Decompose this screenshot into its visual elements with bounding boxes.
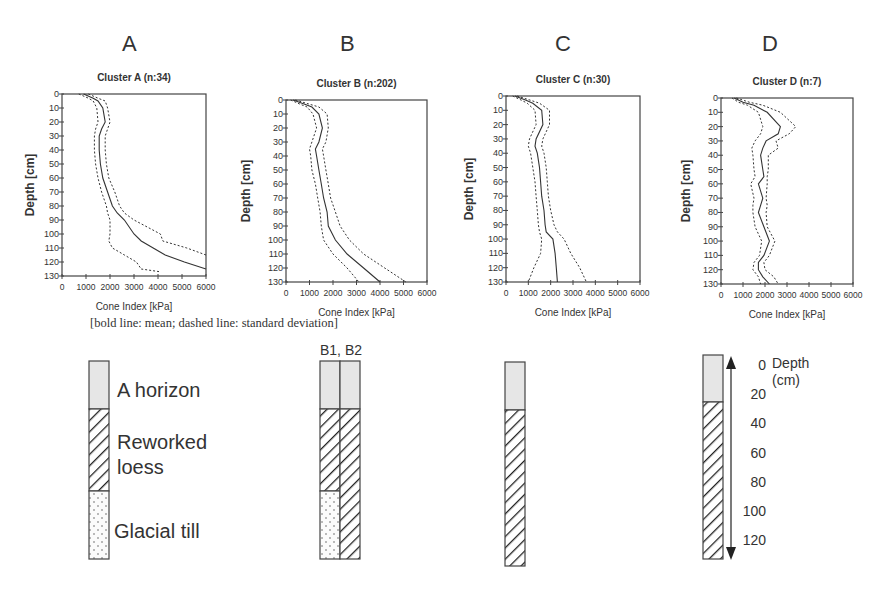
- column-a-reworked-loess: [89, 409, 109, 491]
- x-tick-label: 2000: [324, 288, 343, 298]
- y-tick-label: 50: [273, 165, 283, 175]
- y-tick-label: 0: [713, 93, 718, 103]
- y-tick-label: 20: [493, 120, 503, 130]
- y-tick-label: 120: [44, 257, 59, 267]
- y-tick-label: 90: [708, 222, 718, 232]
- figure-caption: [bold line: mean; dashed line: standard …: [90, 316, 338, 331]
- y-tick-label: 20: [49, 117, 59, 127]
- y-tick-label: 100: [268, 235, 283, 245]
- x-tick-label: 1000: [300, 288, 319, 298]
- legend-reworked-loess-line1: Reworked: [117, 430, 207, 454]
- x-tick-label: 2000: [756, 290, 775, 300]
- depth-tick-label: 0: [730, 357, 766, 373]
- x-tick-label: 6000: [631, 288, 650, 298]
- sd-line: [88, 94, 206, 255]
- depth-tick-label: 20: [730, 386, 766, 402]
- y-tick-label: 80: [49, 201, 59, 211]
- y-tick-label: 120: [703, 265, 718, 275]
- x-tick-label: 5000: [822, 290, 841, 300]
- legend-glacial-till: Glacial till: [114, 519, 200, 543]
- y-tick-label: 130: [268, 277, 283, 287]
- y-tick-label: 70: [273, 193, 283, 203]
- depth-tick-label: 100: [730, 503, 766, 519]
- y-tick-label: 50: [493, 163, 503, 173]
- y-tick-label: 10: [493, 105, 503, 115]
- plot-title: Cluster B (n:202): [316, 78, 396, 89]
- y-tick-label: 100: [44, 229, 59, 239]
- x-tick-label: 1000: [77, 282, 96, 292]
- column-b2-reworked-loess: [340, 409, 360, 559]
- y-tick-label: 40: [708, 150, 718, 160]
- y-tick-label: 60: [493, 177, 503, 187]
- sd-line: [295, 100, 406, 282]
- x-tick-label: 6000: [418, 288, 437, 298]
- x-tick-label: 1000: [734, 290, 753, 300]
- x-tick-label: 0: [504, 288, 509, 298]
- x-tick-label: 3000: [125, 282, 144, 292]
- y-tick-label: 80: [708, 207, 718, 217]
- y-tick-label: 40: [493, 148, 503, 158]
- y-tick-label: 100: [488, 234, 503, 244]
- plot-cluster-c: Cluster C (n:30)010203040506070809010011…: [462, 74, 650, 318]
- y-tick-label: 60: [708, 179, 718, 189]
- x-tick-label: 4000: [800, 290, 819, 300]
- y-tick-label: 10: [49, 103, 59, 113]
- sd-line: [732, 98, 763, 284]
- mean-line: [84, 94, 206, 269]
- x-tick-label: 2000: [101, 282, 120, 292]
- y-tick-label: 120: [488, 263, 503, 273]
- x-tick-label: 4000: [149, 282, 168, 292]
- sd-line: [141, 269, 160, 272]
- mean-line: [734, 98, 780, 284]
- column-b1-glacial-till: [320, 491, 340, 559]
- y-axis-label: Depth [cm]: [462, 158, 476, 221]
- x-tick-label: 5000: [608, 288, 627, 298]
- depth-tick-label: 40: [730, 415, 766, 431]
- y-tick-label: 80: [493, 205, 503, 215]
- y-tick-label: 110: [489, 248, 503, 258]
- y-tick-label: 50: [49, 159, 59, 169]
- y-axis-label: Depth [cm]: [239, 160, 253, 223]
- plot-frame: [721, 98, 853, 284]
- x-tick-label: 1000: [519, 288, 538, 298]
- y-tick-label: 70: [708, 193, 718, 203]
- column-c-reworked-loess: [505, 410, 525, 566]
- y-tick-label: 10: [708, 107, 718, 117]
- cone-index-plots: Cluster A (n:34)010203040506070809010011…: [23, 72, 863, 320]
- x-axis-label: Cone Index [kPa]: [749, 309, 826, 320]
- y-tick-label: 90: [273, 221, 283, 231]
- depth-tick-label: 60: [730, 445, 766, 461]
- column-b1-a-horizon: [320, 361, 340, 409]
- sd-line: [517, 96, 586, 282]
- x-tick-label: 3000: [564, 288, 583, 298]
- column-a-a-horizon: [89, 361, 109, 409]
- mean-line: [293, 100, 380, 282]
- y-tick-label: 0: [54, 89, 59, 99]
- b-columns-label: B1, B2: [320, 342, 362, 358]
- column-c-a-horizon: [505, 362, 525, 410]
- plot-frame: [62, 94, 206, 276]
- x-tick-label: 4000: [586, 288, 605, 298]
- column-b1-reworked-loess: [320, 409, 340, 491]
- depth-scale-title-line1: Depth: [772, 355, 809, 372]
- y-tick-label: 60: [49, 173, 59, 183]
- legend-reworked-loess-line2: loess: [117, 455, 164, 479]
- depth-tick-label: 80: [730, 474, 766, 490]
- plot-cluster-d: Cluster D (n:7)0102030405060708090100110…: [679, 76, 863, 320]
- y-tick-label: 100: [703, 236, 718, 246]
- y-tick-label: 80: [273, 207, 283, 217]
- y-tick-label: 70: [49, 187, 59, 197]
- plot-frame: [506, 96, 640, 282]
- depth-scale-title: Depth (cm): [772, 355, 809, 389]
- y-tick-label: 40: [49, 145, 59, 155]
- y-tick-label: 130: [488, 277, 503, 287]
- y-tick-label: 120: [268, 263, 283, 273]
- y-tick-label: 110: [704, 250, 718, 260]
- y-tick-label: 110: [269, 249, 283, 259]
- depth-scale-title-line2: (cm): [772, 372, 809, 389]
- y-tick-label: 90: [493, 220, 503, 230]
- legend-a-horizon: A horizon: [117, 378, 200, 402]
- y-tick-label: 60: [273, 179, 283, 189]
- y-tick-label: 30: [708, 136, 718, 146]
- plot-cluster-b: Cluster B (n:202)01020304050607080901001…: [239, 78, 437, 318]
